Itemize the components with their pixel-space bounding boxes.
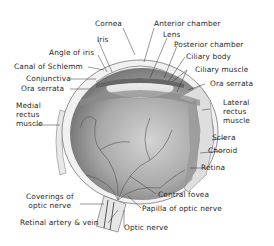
label-angle-of-iris: Angle of iris — [49, 49, 94, 57]
label-central-fovea: Central fovea — [158, 191, 209, 199]
label-coverings-of-optic-nerve: Coverings of optic nerve — [26, 192, 74, 210]
label-optic-nerve: Optic nerve — [124, 224, 168, 232]
label-cornea: Cornea — [95, 20, 122, 28]
label-choroid: Choroid — [208, 147, 237, 155]
label-iris: Iris — [97, 36, 109, 44]
label-lens: Lens — [163, 31, 180, 39]
label-retinal-artery-and-vein: Retinal artery & vein — [20, 219, 99, 227]
label-anterior-chamber: Anterior chamber — [154, 20, 221, 28]
label-medial-rectus-muscle: Medial rectus muscle — [16, 101, 43, 128]
label-ciliary-body: Ciliary body — [186, 53, 231, 61]
label-ciliary-muscle: Ciliary muscle — [195, 66, 248, 74]
label-papilla-of-optic-nerve: Papilla of optic nerve — [142, 205, 222, 213]
label-canal-of-schlemm: Canal of Schlemm — [14, 63, 83, 71]
label-conjunctiva: Conjunctiva — [26, 75, 71, 83]
label-ora-serrata-left: Ora serrata — [21, 85, 64, 93]
label-lateral-rectus-muscle: Lateral rectus muscle — [223, 98, 250, 125]
label-ora-serrata-right: Ora serrata — [210, 80, 253, 88]
label-posterior-chamber: Posterior chamber — [174, 41, 243, 49]
label-sclera: Sclera — [212, 134, 236, 142]
label-retina: Retina — [201, 164, 225, 172]
